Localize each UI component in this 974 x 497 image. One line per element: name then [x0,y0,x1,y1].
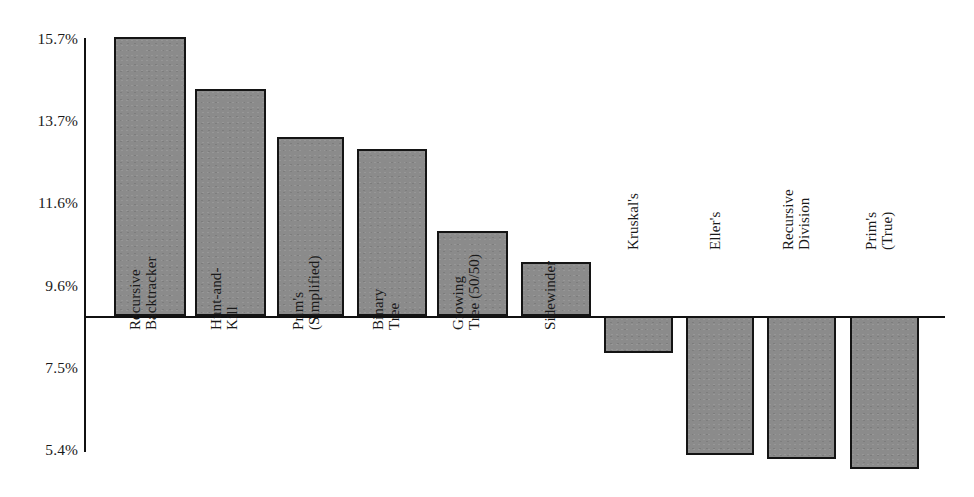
category-label: BinaryTree [371,289,403,330]
bar [686,316,754,455]
category-label-line: Eller's [708,212,724,250]
y-axis-tick-label: 15.7% [37,31,78,47]
category-label-line: Prim's [864,212,880,250]
category-label-line: (True) [880,212,896,250]
category-label-line: Recursive [128,256,144,330]
y-axis-tick-labels: 15.7%13.7%11.6%9.6%7.5%5.4% [0,0,78,497]
category-label-line: Backtracker [144,256,160,330]
category-label-line: Sidewinder [543,261,559,330]
y-axis-tick-label: 11.6% [38,195,78,211]
y-axis-tick-label: 7.5% [45,360,78,376]
category-label: Kruskal's [626,193,642,250]
category-label-line: Recursive [781,189,797,250]
bar [604,316,673,353]
category-label-line: Kill [225,267,241,330]
bar-chart: 15.7%13.7%11.6%9.6%7.5%5.4% RecursiveBac… [0,0,974,497]
category-label-line: Growing [451,254,467,330]
category-label: GrowingTree (50/50) [451,254,483,330]
bar [850,316,919,469]
category-label-line: (Simplified) [307,255,323,330]
category-label-line: Binary [371,289,387,330]
category-label: Sidewinder [543,261,559,330]
category-label-line: Kruskal's [626,193,642,250]
category-label-line: Tree [387,289,403,330]
category-label: Prim's(True) [864,212,896,250]
y-axis-tick-label: 9.6% [45,278,78,294]
category-label-line: Prim's [291,255,307,330]
category-label-line: Division [797,189,813,250]
category-label: Prim's(Simplified) [291,255,323,330]
bar [767,316,836,459]
category-label-line: Hunt-and- [209,267,225,330]
category-label: Hunt-and-Kill [209,267,241,330]
y-axis-tick-label: 5.4% [45,442,78,458]
category-label-line: Tree (50/50) [467,254,483,330]
category-label: RecursiveBacktracker [128,256,160,330]
y-axis-tick-label: 13.7% [37,113,78,129]
y-axis-line [84,38,86,452]
category-label: RecursiveDivision [781,189,813,250]
category-label: Eller's [708,212,724,250]
